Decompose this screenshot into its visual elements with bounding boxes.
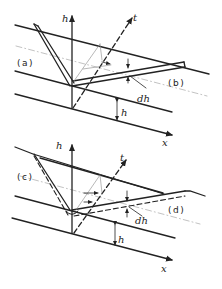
svg-text:h: h [121, 107, 127, 118]
wedge-diagram: h t x (a) (b) dh h [0, 0, 222, 289]
construction-line [83, 65, 111, 69]
construction-line [100, 175, 102, 193]
svg-text:t: t [120, 152, 125, 163]
upper-boundary-line [15, 25, 209, 74]
svg-text:dh: dh [137, 93, 150, 104]
svg-text:x: x [161, 263, 167, 274]
svg-text:x: x [162, 137, 168, 148]
svg-text:t: t [133, 12, 138, 23]
panel-top [15, 16, 209, 135]
svg-text:(c): (c) [17, 172, 33, 182]
svg-text:(b): (b) [168, 78, 185, 88]
x-axis [12, 218, 172, 260]
construction-line [74, 44, 100, 81]
svg-text:dh: dh [135, 215, 148, 226]
svg-text:(d): (d) [168, 205, 185, 215]
left-wedge-solid [34, 154, 70, 210]
panel-bottom-labels: h t x (c) (d) dh h [17, 140, 185, 274]
t-axis [74, 160, 126, 233]
svg-text:h: h [62, 13, 68, 24]
svg-text:h: h [118, 234, 124, 245]
upper-boundary-step [185, 191, 205, 196]
small-arrow [102, 62, 110, 64]
right-plank-cap [184, 62, 185, 67]
construction-line [76, 175, 100, 210]
svg-text:h: h [56, 140, 62, 151]
svg-text:(a): (a) [17, 58, 34, 68]
middle-boundary-line [15, 196, 175, 238]
panel-bottom [12, 145, 205, 260]
left-plank-edge-inner [38, 26, 74, 83]
reference-dashed-line [16, 46, 207, 96]
left-plank-edge-outer [34, 24, 70, 86]
